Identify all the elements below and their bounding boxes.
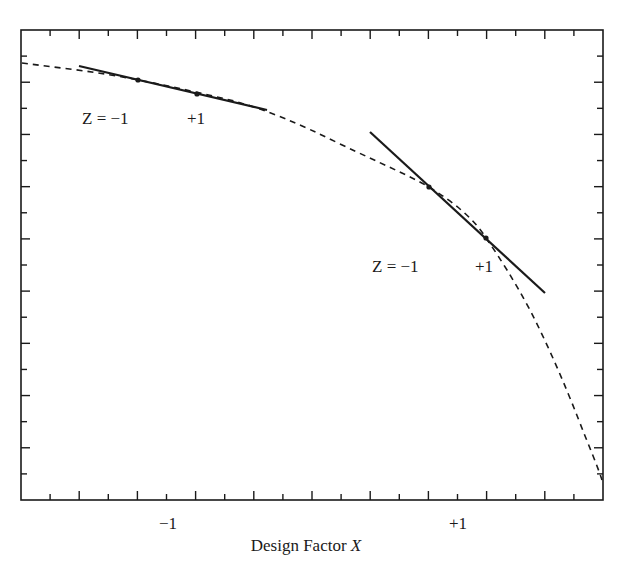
x-tick-label-plus-one: +1	[449, 514, 467, 533]
annotation-right-z-minus: Z = −1	[372, 257, 419, 276]
marker-left-z-plus	[194, 91, 199, 96]
x-tick-label-minus-one: −1	[159, 514, 177, 533]
x-axis-title-text: Design Factor	[251, 536, 351, 555]
marker-right-z-plus	[483, 235, 488, 240]
tangent-line-left	[79, 66, 267, 110]
annotation-right-z-plus: +1	[475, 257, 493, 276]
x-axis-title-variable: X	[350, 536, 362, 555]
annotation-left-z-minus: Z = −1	[82, 109, 129, 128]
chart: Z = −1 +1 Z = −1 +1 −1 +1 Design Factor …	[0, 0, 623, 573]
x-axis-title: Design Factor X	[251, 536, 362, 555]
annotation-left-z-plus: +1	[187, 109, 205, 128]
marker-right-z-minus	[426, 184, 431, 189]
marker-left-z-minus	[135, 77, 140, 82]
